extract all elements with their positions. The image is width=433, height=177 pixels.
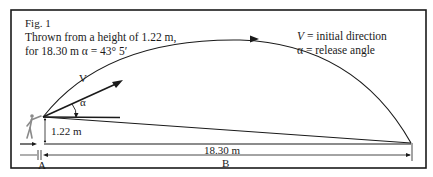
legend-velocity: V = initial direction bbox=[297, 31, 387, 43]
b-left-arrow-icon bbox=[43, 153, 48, 157]
legend-v-symbol: V bbox=[297, 30, 304, 42]
velocity-arrowhead-icon bbox=[112, 80, 123, 88]
caption-line-2: for 18.30 m α = 43° 5′ bbox=[25, 46, 127, 58]
legend-angle: α = release angle bbox=[297, 45, 375, 57]
b-right-arrow-icon bbox=[406, 153, 411, 157]
projectile-diagram: Fig. 1 Thrown from a height of 1.22 m, f… bbox=[0, 0, 433, 177]
release-to-landing-line bbox=[43, 117, 411, 143]
figure-label: Fig. 1 bbox=[25, 18, 51, 29]
caption-line-1: Thrown from a height of 1.22 m, bbox=[25, 32, 176, 44]
legend-alpha-text: = release angle bbox=[303, 44, 375, 56]
height-dim-top-dot bbox=[44, 118, 46, 120]
point-a-label: A bbox=[38, 160, 46, 171]
legend-v-text: = initial direction bbox=[304, 30, 387, 42]
point-b-label: B bbox=[222, 158, 229, 169]
height-dim-bottom-dot bbox=[44, 140, 46, 142]
release-height-label: 1.22 m bbox=[51, 126, 82, 137]
angle-label: α bbox=[80, 97, 86, 108]
left-stub-arrow-icon bbox=[32, 142, 37, 146]
thrower-figure-icon bbox=[27, 114, 41, 138]
velocity-label: V bbox=[79, 73, 87, 84]
throw-distance-label: 18.30 m bbox=[204, 145, 240, 156]
